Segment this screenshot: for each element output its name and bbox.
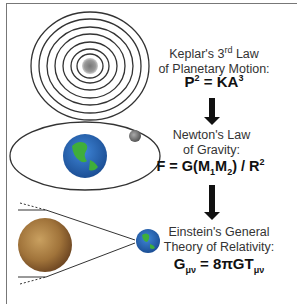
down-arrow-icon [209,98,215,118]
sun-icon [82,58,98,74]
down-arrow-icon [209,185,215,213]
newton-equation: F = G(M1M2) / R2 [143,157,278,177]
moon-icon [129,130,141,142]
einstein-title: Einstein's General Theory of Relativity: [160,225,278,255]
einstein-equation: Gμν = 8πGTμν [160,255,278,275]
newton-title: Newton's Law of Gravity: [145,128,278,158]
kepler-equation: P2 = KA3 [150,73,278,90]
earth-small-icon [136,229,160,253]
earth-large-icon [63,134,107,178]
mars-icon [18,218,72,272]
